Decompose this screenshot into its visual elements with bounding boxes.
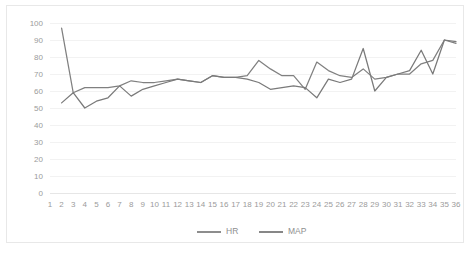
x-tick-label: 9 bbox=[141, 200, 146, 209]
gridlines-group bbox=[50, 23, 456, 193]
x-tick-label: 10 bbox=[150, 200, 159, 209]
y-tick-label: 80 bbox=[34, 53, 43, 62]
x-tick-label: 3 bbox=[71, 200, 76, 209]
y-tick-label: 0 bbox=[39, 189, 44, 198]
x-tick-label: 13 bbox=[185, 200, 194, 209]
x-tick-label: 36 bbox=[452, 200, 461, 209]
x-tick-label: 18 bbox=[243, 200, 252, 209]
x-tick-label: 12 bbox=[173, 200, 182, 209]
x-tick-label: 29 bbox=[370, 200, 379, 209]
y-tick-label: 90 bbox=[34, 36, 43, 45]
x-tick-label: 33 bbox=[417, 200, 426, 209]
x-tick-label: 34 bbox=[428, 200, 437, 209]
x-tick-label: 21 bbox=[278, 200, 287, 209]
x-axis-tick-labels: 1234567891011121314151617181920212223242… bbox=[48, 200, 461, 209]
y-tick-label: 100 bbox=[30, 19, 44, 28]
x-tick-label: 4 bbox=[83, 200, 88, 209]
legend-label-map[interactable]: MAP bbox=[288, 226, 307, 236]
chart-legend: HRMAP bbox=[197, 226, 307, 236]
x-tick-label: 31 bbox=[394, 200, 403, 209]
y-tick-label: 10 bbox=[34, 172, 43, 181]
x-tick-label: 27 bbox=[347, 200, 356, 209]
x-tick-label: 30 bbox=[382, 200, 391, 209]
x-tick-label: 35 bbox=[440, 200, 449, 209]
x-tick-label: 19 bbox=[254, 200, 263, 209]
line-chart: 0102030405060708090100 12345678910111213… bbox=[7, 6, 465, 244]
x-tick-label: 8 bbox=[129, 200, 134, 209]
x-tick-label: 24 bbox=[312, 200, 321, 209]
x-tick-label: 25 bbox=[324, 200, 333, 209]
x-tick-label: 2 bbox=[59, 200, 64, 209]
x-tick-label: 16 bbox=[220, 200, 229, 209]
x-tick-label: 15 bbox=[208, 200, 217, 209]
y-tick-label: 40 bbox=[34, 121, 43, 130]
x-tick-label: 22 bbox=[289, 200, 298, 209]
x-tick-label: 28 bbox=[359, 200, 368, 209]
x-tick-label: 6 bbox=[106, 200, 111, 209]
legend-label-hr[interactable]: HR bbox=[226, 226, 238, 236]
x-tick-label: 1 bbox=[48, 200, 53, 209]
x-tick-label: 23 bbox=[301, 200, 310, 209]
y-tick-label: 30 bbox=[34, 138, 43, 147]
x-tick-label: 11 bbox=[162, 200, 171, 209]
x-tick-label: 20 bbox=[266, 200, 275, 209]
y-tick-label: 20 bbox=[34, 155, 43, 164]
x-tick-label: 7 bbox=[117, 200, 122, 209]
x-tick-label: 5 bbox=[94, 200, 99, 209]
x-tick-label: 32 bbox=[405, 200, 414, 209]
x-tick-label: 26 bbox=[336, 200, 345, 209]
chart-card: 0102030405060708090100 12345678910111213… bbox=[6, 5, 464, 243]
x-tick-label: 14 bbox=[196, 200, 205, 209]
y-axis-tick-labels: 0102030405060708090100 bbox=[30, 19, 44, 198]
y-tick-label: 60 bbox=[34, 87, 43, 96]
chart-plot-area: 0102030405060708090100 12345678910111213… bbox=[7, 6, 465, 244]
y-tick-label: 70 bbox=[34, 70, 43, 79]
y-tick-label: 50 bbox=[34, 104, 43, 113]
x-tick-label: 17 bbox=[231, 200, 240, 209]
